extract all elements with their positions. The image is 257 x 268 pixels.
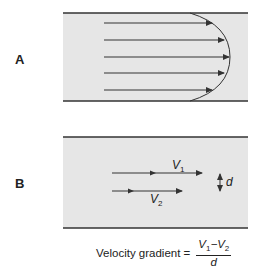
- panel-a-tube: [63, 13, 248, 101]
- formula-fraction: V1−V2 d: [196, 238, 231, 268]
- velocity-gradient-formula: Velocity gradient = V1−V2 d: [96, 238, 231, 268]
- v1-label: V1: [172, 158, 184, 174]
- formula-lhs: Velocity gradient =: [96, 247, 190, 259]
- formula-denominator: d: [211, 256, 217, 268]
- panel-a-label: A: [15, 52, 24, 67]
- formula-numerator: V1−V2: [196, 238, 231, 256]
- v2-label: V2: [150, 192, 162, 208]
- panel-b-tube: [63, 137, 248, 228]
- distance-label: d: [226, 175, 233, 189]
- panel-b-label: B: [15, 176, 24, 191]
